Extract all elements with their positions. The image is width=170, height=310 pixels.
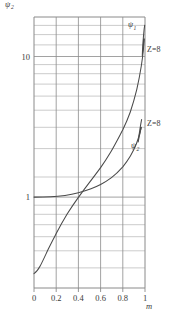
- annotation-z8-lower: Z=8: [147, 119, 160, 128]
- x-tick-label-0-4: 0.4: [73, 293, 84, 303]
- x-tick-label-0-8: 0.8: [117, 293, 128, 303]
- y-tick-label-1: 1: [26, 192, 30, 202]
- y-tick-label-10: 10: [22, 52, 31, 62]
- y-axis-label: ψ 2: [5, 0, 14, 10]
- plot-area-background: [34, 17, 145, 288]
- chart-container: 10 1 0 0.2 0.4 0.6 0.8 1 m ψ 2 ψ 1 ψ 2 Z…: [0, 0, 170, 310]
- x-axis-label: m: [146, 301, 152, 310]
- x-tick-marks: [34, 288, 145, 292]
- x-tick-label-0: 0: [32, 293, 36, 303]
- x-tick-label-0-2: 0.2: [51, 293, 62, 303]
- curve-label-psi-1-subscript: 1: [134, 25, 137, 31]
- annotation-z8-upper: Z=8: [147, 45, 160, 54]
- curve-label-psi-2-subscript: 2: [137, 146, 140, 152]
- semilog-plot: 10 1 0 0.2 0.4 0.6 0.8 1 m ψ 2 ψ 1 ψ 2 Z…: [0, 0, 170, 310]
- y-axis-label-subscript: 2: [11, 4, 14, 10]
- x-tick-label-0-6: 0.6: [95, 293, 106, 303]
